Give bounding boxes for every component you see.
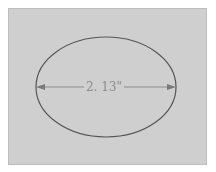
dimension-label: 2. 13": [86, 80, 122, 94]
arrow-right-icon: [167, 84, 176, 90]
ellipse-diagram: 2. 13": [0, 0, 216, 172]
arrow-left-icon: [36, 84, 45, 90]
